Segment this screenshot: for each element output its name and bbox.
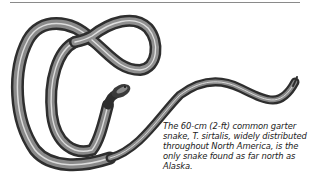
- figure-caption: The 60-cm (2-ft) common garter snake, T.…: [163, 121, 310, 171]
